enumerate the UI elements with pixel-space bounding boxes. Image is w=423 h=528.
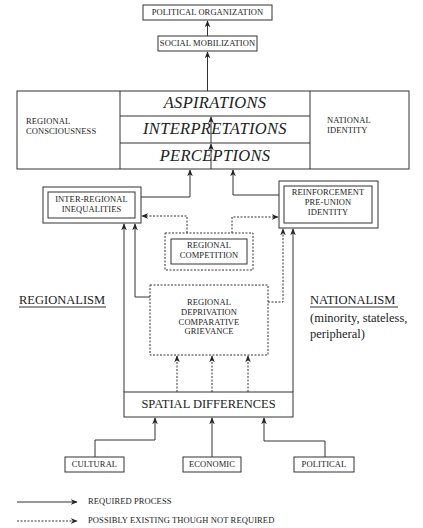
- source-economic: ECONOMIC: [183, 460, 241, 470]
- reinforcement-pre-union-identity: REINFORCEMENT PRE-UNION IDENTITY: [284, 188, 372, 217]
- legend-required: REQUIRED PROCESS: [88, 497, 172, 507]
- interpretations: INTERPRETATIONS: [120, 120, 310, 139]
- legend-possible: POSSIBLY EXISTING THOUGH NOT REQUIRED: [88, 516, 274, 526]
- diagram-canvas: [0, 0, 423, 528]
- inter-regional-inequalities: INTER-REGIONAL INEQUALITIES: [48, 195, 135, 215]
- source-political: POLITICAL: [294, 460, 354, 470]
- national-identity: NATIONAL IDENTITY: [327, 116, 371, 136]
- political-organization: POLITICAL ORGANIZATION: [143, 8, 272, 18]
- regionalism-label: REGIONALISM: [19, 293, 105, 307]
- source-cultural: CULTURAL: [65, 460, 124, 470]
- aspirations: ASPIRATIONS: [120, 94, 310, 113]
- spatial-differences: SPATIAL DIFFERENCES: [124, 397, 293, 411]
- social-mobilization: SOCIAL MOBILIZATION: [158, 39, 257, 49]
- perceptions: PERCEPTIONS: [120, 147, 310, 166]
- regional-deprivation: REGIONAL DEPRIVATION COMPARATIVE GRIEVAN…: [150, 298, 268, 337]
- nationalism-label: NATIONALISM: [310, 293, 395, 307]
- regional-consciousness: REGIONAL CONSCIOUSNESS: [26, 117, 96, 137]
- regional-competition: REGIONAL COMPETITION: [171, 241, 247, 261]
- nationalism-subtitle: (minority, stateless, peripheral): [310, 310, 407, 343]
